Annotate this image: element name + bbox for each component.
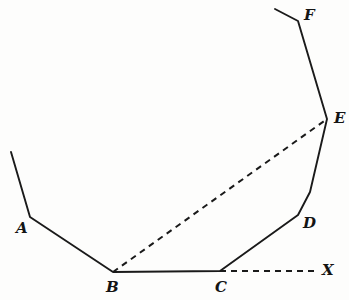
geometry-figure: A B C D E F X [0,0,349,300]
figure-background [0,0,349,300]
label-point-x: X [321,261,335,279]
label-point-e: E [333,109,346,127]
label-point-a: A [14,219,28,237]
label-point-f: F [303,6,316,24]
diagram-canvas: A B C D E F X [0,0,349,300]
label-point-d: D [302,214,316,232]
label-point-c: C [215,278,227,296]
label-point-b: B [105,278,119,296]
